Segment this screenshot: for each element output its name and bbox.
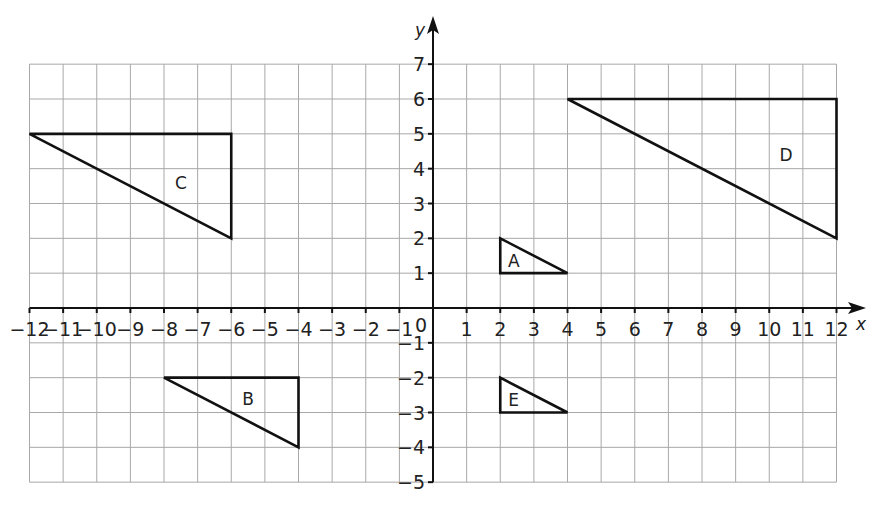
y-tick-label: −5 [397, 471, 425, 493]
y-tick-label: 6 [413, 88, 425, 110]
x-tick-label: 10 [757, 318, 781, 340]
x-tick-label: −10 [77, 318, 117, 340]
triangle-label: A [508, 251, 520, 271]
x-tick-label: 2 [494, 318, 506, 340]
x-axis-name: x [855, 314, 867, 334]
y-tick-label: 3 [413, 193, 425, 215]
x-tick-label: −3 [318, 318, 346, 340]
x-tick-label: 11 [791, 318, 815, 340]
x-tick-label: 4 [561, 318, 573, 340]
y-tick-label: 2 [413, 227, 425, 249]
x-tick-label: −6 [217, 318, 245, 340]
x-tick-label: 5 [595, 318, 607, 340]
triangle-label: C [175, 173, 187, 193]
x-tick-label: 8 [696, 318, 708, 340]
coordinate-grid-diagram: −12−11−10−9−8−7−6−5−4−3−2−11234567891011… [0, 0, 881, 507]
x-tick-label: 3 [528, 318, 540, 340]
triangle-label: B [242, 389, 254, 409]
y-tick-label: 4 [413, 158, 425, 180]
y-tick-label: −4 [397, 436, 425, 458]
y-axis-name: y [414, 20, 426, 40]
x-tick-label: 12 [824, 318, 848, 340]
x-tick-label: −5 [251, 318, 279, 340]
triangle-label: E [508, 390, 519, 410]
triangle-label: D [780, 145, 793, 165]
y-tick-label: 1 [413, 262, 425, 284]
y-tick-label: 7 [413, 53, 425, 75]
x-tick-label: 6 [629, 318, 641, 340]
tick-labels: −12−11−10−9−8−7−6−5−4−3−2−11234567891011… [9, 20, 867, 493]
x-tick-label: −8 [150, 318, 178, 340]
y-tick-label: −3 [397, 402, 425, 424]
x-tick-label: 7 [662, 318, 674, 340]
y-tick-label: 5 [413, 123, 425, 145]
x-tick-label: 9 [730, 318, 742, 340]
origin-label: 0 [415, 314, 427, 336]
y-tick-label: −2 [397, 367, 425, 389]
x-tick-label: −2 [352, 318, 380, 340]
x-tick-label: −7 [184, 318, 212, 340]
x-tick-label: −4 [284, 318, 312, 340]
x-tick-label: −9 [116, 318, 144, 340]
x-tick-label: 1 [461, 318, 473, 340]
